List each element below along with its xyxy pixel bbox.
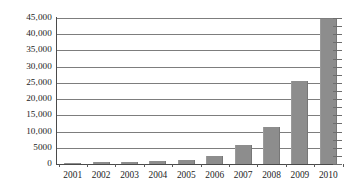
bar bbox=[206, 156, 223, 164]
right-axis-tick bbox=[333, 123, 342, 124]
y-tick-label: 40,000 bbox=[26, 30, 52, 39]
x-axis-tick bbox=[172, 164, 173, 167]
x-axis-tick bbox=[201, 164, 202, 167]
x-axis-tick bbox=[144, 164, 145, 167]
x-axis-tick bbox=[59, 164, 60, 167]
right-axis-tick bbox=[333, 67, 342, 68]
x-tick-label: 2009 bbox=[291, 170, 310, 181]
y-tick-label: 30,000 bbox=[26, 62, 52, 71]
x-axis-tick bbox=[257, 164, 258, 167]
right-axis-tick bbox=[333, 83, 342, 84]
x-tick-label: 2008 bbox=[262, 170, 281, 181]
right-axis-tick bbox=[333, 107, 342, 108]
x-tick-label: 2005 bbox=[177, 170, 196, 181]
x-tick-label: 2010 bbox=[319, 170, 338, 181]
bar bbox=[235, 145, 252, 164]
right-axis-tick bbox=[333, 59, 342, 60]
x-tick-label: 2007 bbox=[234, 170, 253, 181]
right-axis-tick bbox=[333, 34, 342, 35]
right-axis-tick bbox=[333, 132, 342, 133]
x-tick-label: 2002 bbox=[92, 170, 111, 181]
x-axis-ticks bbox=[57, 164, 341, 168]
y-tick-label: 45,000 bbox=[26, 13, 52, 22]
x-tick-label: 2003 bbox=[120, 170, 139, 181]
x-axis-labels: 2001200220032004200520062007200820092010 bbox=[57, 170, 345, 186]
right-axis-ticks bbox=[333, 18, 342, 165]
y-tick-label: 10,000 bbox=[26, 127, 52, 136]
right-axis-tick bbox=[333, 91, 342, 92]
right-axis-tick bbox=[333, 42, 342, 43]
x-tick-label: 2006 bbox=[205, 170, 224, 181]
bar bbox=[291, 81, 308, 164]
y-tick-label: 0 bbox=[47, 159, 52, 168]
x-axis-tick bbox=[87, 164, 88, 167]
bar-chart: 0500010,00015,00020,00025,00030,00035,00… bbox=[0, 0, 346, 193]
y-tick-label: 5000 bbox=[33, 143, 52, 152]
x-axis-tick bbox=[229, 164, 230, 167]
x-axis-tick bbox=[286, 164, 287, 167]
y-tick-label: 25,000 bbox=[26, 78, 52, 87]
right-axis-tick bbox=[333, 115, 342, 116]
right-axis-tick bbox=[333, 156, 342, 157]
x-tick-label: 2001 bbox=[63, 170, 82, 181]
right-axis-tick bbox=[333, 26, 342, 27]
right-axis-tick bbox=[333, 140, 342, 141]
right-axis-tick bbox=[333, 148, 342, 149]
y-tick-label: 35,000 bbox=[26, 46, 52, 55]
right-axis-tick bbox=[333, 18, 342, 19]
right-axis-tick bbox=[333, 75, 342, 76]
x-axis-tick bbox=[115, 164, 116, 167]
right-axis-tick bbox=[333, 50, 342, 51]
y-tick-label: 20,000 bbox=[26, 95, 52, 104]
y-tick-label: 15,000 bbox=[26, 111, 52, 120]
right-axis-tick bbox=[333, 99, 342, 100]
x-axis-tick bbox=[314, 164, 315, 167]
bars-layer bbox=[57, 18, 341, 164]
x-axis-tick bbox=[343, 164, 344, 167]
bar bbox=[263, 127, 280, 164]
y-axis-labels: 0500010,00015,00020,00025,00030,00035,00… bbox=[0, 0, 56, 193]
x-tick-label: 2004 bbox=[149, 170, 168, 181]
